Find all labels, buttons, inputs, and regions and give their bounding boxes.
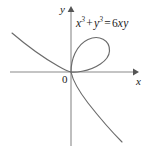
equation-annotation: x3+y3=6xy: [76, 18, 128, 30]
equation-rhs-variables: xy: [118, 17, 129, 29]
curve-lower-right-branch: [71, 72, 122, 142]
origin-label: 0: [62, 74, 68, 85]
folium-of-descartes-figure: y x 0 x3+y3=6xy: [0, 0, 156, 151]
y-axis-arrowhead: [68, 6, 75, 12]
equation-equals-operator: =: [103, 17, 112, 29]
y-axis-label: y: [60, 4, 65, 15]
x-axis-label: x: [136, 76, 141, 87]
curve-upper-left-branch: [12, 33, 71, 72]
equation-plus-operator: +: [85, 17, 94, 29]
curve-loop: [71, 38, 110, 73]
